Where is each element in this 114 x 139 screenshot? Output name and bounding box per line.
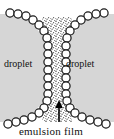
emulsion-film-diagram: droplet droplet emulsion film [0, 0, 114, 139]
label-emulsion-film: emulsion film [19, 125, 83, 137]
surfactant-column-left [44, 42, 52, 98]
label-droplet-left: droplet [4, 58, 32, 69]
surfactant-column-right [62, 42, 70, 98]
diagram-canvas [0, 0, 114, 139]
label-droplet-right: droplet [66, 58, 94, 69]
